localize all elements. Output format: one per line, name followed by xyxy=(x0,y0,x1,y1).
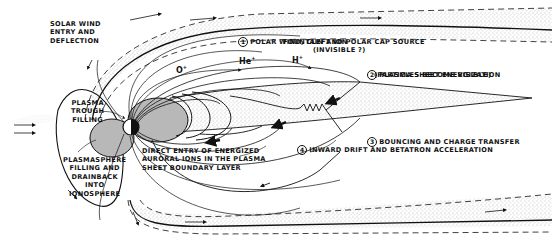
inward-drift-text: INWARD DRIFT AND BETATRON ACCELERATION xyxy=(309,146,493,154)
plasma-trough-label: PLASMA TROUGH FILLING xyxy=(71,99,104,124)
solar-wind-inflow xyxy=(12,114,58,133)
plasma-sheet-line2: (PARTICLES BECOME VISIBLE) xyxy=(374,71,491,79)
ion-charge: + xyxy=(299,54,303,60)
direct-entry-label: DIRECT ENTRY OF ENERGIZED AURORAL IONS I… xyxy=(142,147,266,172)
ion-charge: + xyxy=(251,55,255,61)
ion-oxygen: O+ xyxy=(176,64,187,75)
ion-base: He xyxy=(239,57,251,66)
ion-base: H xyxy=(292,56,299,65)
lower-magnetosheath xyxy=(128,194,552,234)
ion-helium: He+ xyxy=(239,55,255,66)
solar-wind-label: SOLAR WIND ENTRY AND DEFLECTION xyxy=(50,20,101,45)
step-4-marker: 4 xyxy=(297,145,307,155)
ion-hydrogen: H+ xyxy=(292,54,303,65)
ion-charge: + xyxy=(183,64,187,70)
plasmasphere-label: PLASMASPHERE FILLING AND DRAINBACK INTO … xyxy=(63,156,126,198)
ion-base: O xyxy=(176,66,183,75)
inward-drift-label: 4INWARD DRIFT AND BETATRON ACCELERATION xyxy=(292,137,493,155)
polar-wind-line3: (INVISIBLE ?) xyxy=(313,46,366,54)
step-1-marker: 1 xyxy=(238,37,248,47)
